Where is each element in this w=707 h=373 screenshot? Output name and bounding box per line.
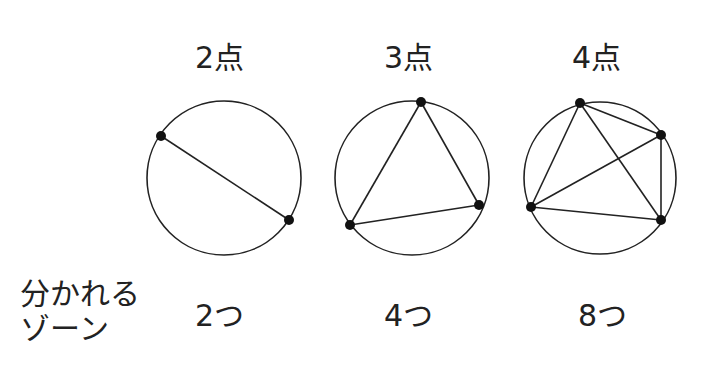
chord bbox=[350, 205, 479, 225]
point bbox=[156, 131, 166, 141]
chord bbox=[161, 136, 289, 220]
point bbox=[284, 215, 294, 225]
circle bbox=[335, 101, 489, 255]
point bbox=[345, 220, 355, 230]
row-label-line2: ゾーン bbox=[20, 311, 140, 346]
point bbox=[526, 202, 536, 212]
circle-diagram-2-points bbox=[147, 101, 301, 255]
circle bbox=[524, 102, 676, 254]
circle-diagram-4-points bbox=[524, 98, 676, 254]
point bbox=[656, 215, 666, 225]
chord bbox=[531, 207, 661, 220]
row-label-line1: 分かれる bbox=[20, 276, 140, 311]
point bbox=[575, 98, 585, 108]
chord bbox=[531, 103, 580, 207]
zone-count-2-points: 2つ bbox=[195, 300, 244, 332]
point bbox=[656, 130, 666, 140]
zone-count-4-points: 8つ bbox=[578, 300, 627, 332]
point bbox=[474, 200, 484, 210]
point bbox=[416, 97, 426, 107]
row-label-zones: 分かれる ゾーン bbox=[20, 276, 140, 346]
chord bbox=[421, 102, 479, 205]
chord bbox=[531, 135, 661, 207]
circle-diagram-3-points bbox=[335, 97, 489, 255]
zone-count-3-points: 4つ bbox=[384, 300, 433, 332]
